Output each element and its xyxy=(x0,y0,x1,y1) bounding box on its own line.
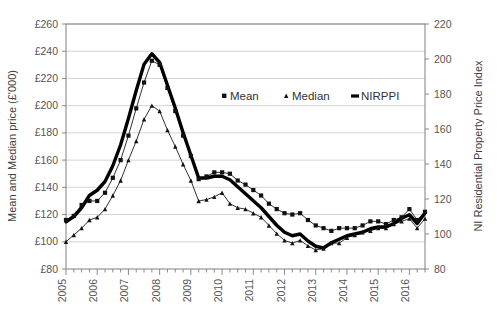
right-axis-tick-label: 200 xyxy=(434,53,452,65)
x-axis-tick-label: 2016 xyxy=(399,279,411,303)
data-point-mean xyxy=(134,106,138,110)
left-axis-tick-label: £200 xyxy=(35,99,59,111)
data-point-mean xyxy=(165,86,169,90)
data-point-mean xyxy=(407,207,411,211)
left-axis-tick-label: £80 xyxy=(40,263,58,275)
right-axis-tick-label: 120 xyxy=(434,193,452,205)
data-point-mean xyxy=(259,193,263,197)
right-axis-tick-label: 100 xyxy=(434,228,452,240)
right-axis-tick-label: 220 xyxy=(434,18,452,30)
data-point-mean xyxy=(306,218,310,222)
data-point-mean xyxy=(298,211,302,215)
data-point-mean xyxy=(251,188,255,192)
data-point-mean xyxy=(337,226,341,230)
x-axis-tick-label: 2012 xyxy=(275,279,287,303)
data-point-mean xyxy=(189,154,193,158)
data-point-mean xyxy=(181,134,185,138)
x-axis-tick-label: 2006 xyxy=(87,279,99,303)
left-axis-title: Mean and Median price (£'000) xyxy=(6,70,18,222)
x-axis-tick-label: 2008 xyxy=(150,279,162,303)
data-point-mean xyxy=(282,211,286,215)
right-axis-tick-label: 80 xyxy=(434,263,446,275)
data-point-mean xyxy=(72,214,76,218)
data-point-mean xyxy=(111,176,115,180)
x-axis-tick-label: 2010 xyxy=(212,279,224,303)
data-point-mean xyxy=(228,172,232,176)
left-axis-tick-label: £240 xyxy=(35,45,59,57)
data-point-mean xyxy=(212,170,216,174)
x-axis-tick-label: 2005 xyxy=(56,279,68,303)
left-axis-tick-label: £140 xyxy=(35,181,59,193)
left-axis-tick-label: £180 xyxy=(35,126,59,138)
price-index-line-chart: £80£100£120£140£160£180£200£220£240£260 … xyxy=(0,0,497,323)
data-point-mean xyxy=(376,219,380,223)
data-point-mean xyxy=(243,183,247,187)
data-point-mean xyxy=(142,80,146,84)
legend-label: NIRPPI xyxy=(361,90,399,102)
data-point-mean xyxy=(158,63,162,67)
data-point-mean xyxy=(275,207,279,211)
data-point-mean xyxy=(173,109,177,113)
data-point-mean xyxy=(423,210,427,214)
left-axis-tick-label: £260 xyxy=(35,18,59,30)
data-point-mean xyxy=(314,223,318,227)
x-axis-tick-label: 2015 xyxy=(368,279,380,303)
data-point-mean xyxy=(345,226,349,230)
data-point-mean xyxy=(80,203,84,207)
x-axis-tick-label: 2007 xyxy=(118,279,130,303)
data-point-mean xyxy=(103,191,107,195)
data-point-mean xyxy=(392,218,396,222)
data-point-mean xyxy=(204,174,208,178)
data-point-mean xyxy=(197,177,201,181)
legend-label: Median xyxy=(292,90,330,102)
data-point-mean xyxy=(95,199,99,203)
data-point-mean xyxy=(415,218,419,222)
data-point-mean xyxy=(87,199,91,203)
right-axis-tick-label: 180 xyxy=(434,88,452,100)
data-point-mean xyxy=(384,222,388,226)
right-axis-title: NI Residential Property Price Index xyxy=(472,60,484,232)
x-axis-tick-label: 2011 xyxy=(243,279,255,302)
data-point-mean xyxy=(290,212,294,216)
right-axis-tick-label: 140 xyxy=(434,158,452,170)
x-axis-tick-label: 2013 xyxy=(306,279,318,303)
chart-background xyxy=(0,0,497,323)
legend-marker-square-icon xyxy=(222,94,226,98)
data-point-mean xyxy=(150,59,154,63)
data-point-mean xyxy=(267,202,271,206)
data-point-mean xyxy=(321,226,325,230)
legend-label: Mean xyxy=(230,90,259,102)
data-point-mean xyxy=(119,158,123,162)
x-axis-tick-label: 2014 xyxy=(337,279,349,303)
data-point-mean xyxy=(220,170,224,174)
data-point-mean xyxy=(368,219,372,223)
data-point-mean xyxy=(360,223,364,227)
right-axis-tick-label: 160 xyxy=(434,123,452,135)
left-axis-tick-label: £220 xyxy=(35,72,59,84)
x-axis-tick-label: 2009 xyxy=(181,279,193,303)
data-point-mean xyxy=(353,226,357,230)
data-point-mean xyxy=(64,218,68,222)
left-axis-tick-label: £160 xyxy=(35,154,59,166)
left-axis-tick-label: £100 xyxy=(35,235,59,247)
chart-legend: MeanMedianNIRPPI xyxy=(222,90,399,102)
data-point-mean xyxy=(329,229,333,233)
data-point-mean xyxy=(236,178,240,182)
data-point-mean xyxy=(126,134,130,138)
data-point-mean xyxy=(399,215,403,219)
left-axis-tick-label: £120 xyxy=(35,208,59,220)
chart-container: £80£100£120£140£160£180£200£220£240£260 … xyxy=(0,0,497,323)
